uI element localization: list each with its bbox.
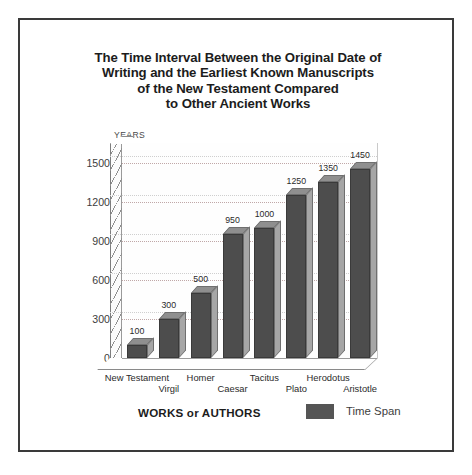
bar [127, 345, 147, 358]
bar-front-face [159, 319, 179, 358]
x-tick-label: Caesar [199, 383, 267, 394]
bar-front-face [350, 169, 370, 358]
axis-floor-face [97, 358, 377, 370]
y-tick-label: 600 [66, 274, 110, 286]
bar-series: 1003005009501000125013501450 [122, 143, 377, 358]
x-tick-label: New Testament [103, 372, 171, 383]
bar-side-face [370, 161, 377, 358]
bar-side-face [274, 220, 281, 358]
bar-value-label: 500 [181, 274, 221, 284]
bar [286, 195, 306, 358]
y-tick-label: 1500 [66, 157, 110, 169]
x-axis-title: WORKS or AUTHORS [138, 406, 261, 419]
chart-title-line-2: Writing and the Earliest Known Manuscrip… [20, 65, 456, 80]
axis-baseline [122, 358, 377, 359]
y-tick-label: 900 [66, 235, 110, 247]
plot-right-border [377, 143, 378, 358]
bar-side-face [179, 311, 186, 358]
chart-title-line-4: to Other Ancient Works [20, 96, 456, 111]
bar-front-face [254, 228, 274, 358]
bar [350, 169, 370, 358]
bar [191, 293, 211, 358]
x-tick-label: Plato [262, 383, 330, 394]
x-tick-label: Tacitus [230, 372, 298, 383]
bar [254, 228, 274, 358]
chart-title-line-3: of the New Testament Compared [20, 81, 456, 96]
x-tick-label: Homer [167, 372, 235, 383]
legend-label-time-span: Time Span [346, 405, 401, 417]
bar-front-face [191, 293, 211, 358]
chart-plot-region: YEARS 030060090012001500 100300500950100… [32, 130, 444, 380]
bar-side-face [243, 226, 250, 358]
legend-row: WORKS or AUTHORS Time Span [20, 402, 456, 428]
bar [318, 182, 338, 358]
bar-front-face [318, 182, 338, 358]
bar-value-label: 100 [117, 326, 157, 336]
axis-floor [110, 358, 390, 370]
y-tick-label: 1200 [66, 196, 110, 208]
bar-value-label: 1450 [340, 150, 380, 160]
x-tick-label: Virgil [135, 383, 203, 394]
bar-value-label: 300 [149, 300, 189, 310]
bar-value-label: 1250 [276, 176, 316, 186]
legend-swatch-time-span [306, 404, 334, 419]
x-tick-label: Herodotus [294, 372, 362, 383]
bar-front-face [286, 195, 306, 358]
bar-front-face [223, 234, 243, 358]
bar-value-label: 1350 [308, 163, 348, 173]
y-tick-label: 300 [66, 313, 110, 325]
bar-side-face [306, 187, 313, 358]
chart-title: The Time Interval Between the Original D… [20, 50, 456, 112]
bar-side-face [211, 285, 218, 358]
bar [223, 234, 243, 358]
y-tick-label: 0 [66, 352, 110, 364]
chart-title-line-1: The Time Interval Between the Original D… [20, 50, 456, 65]
bar-side-face [338, 174, 345, 358]
bar-value-label: 1000 [244, 209, 284, 219]
bar-front-face [127, 345, 147, 358]
chart-frame: The Time Interval Between the Original D… [18, 18, 454, 452]
x-tick-label: Aristotle [326, 383, 394, 394]
bar [159, 319, 179, 358]
